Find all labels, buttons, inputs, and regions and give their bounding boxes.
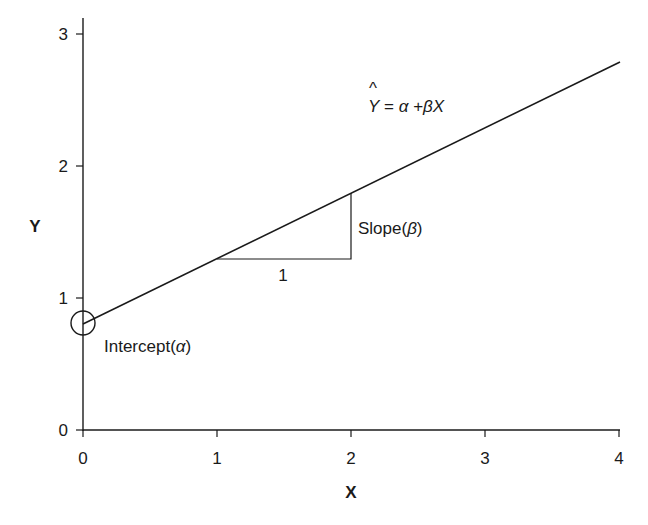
regression-chart: 3 2 1 0 0 1 2 3 4 X Y 1 Slope(β) Interce…	[0, 0, 648, 525]
y-ticks: 3 2 1 0	[59, 25, 83, 440]
x-axis-label: X	[345, 483, 357, 502]
x-tick-label: 1	[212, 449, 221, 468]
y-tick-label: 1	[59, 289, 68, 308]
y-tick-label: 2	[59, 157, 68, 176]
y-tick-label: 0	[59, 421, 68, 440]
x-tick-label: 4	[614, 449, 623, 468]
y-axis-label: Y	[29, 217, 41, 236]
x-tick-label: 0	[78, 449, 87, 468]
hat-symbol: ^	[369, 79, 377, 98]
run-label: 1	[278, 266, 287, 285]
x-tick-label: 2	[346, 449, 355, 468]
intercept-label: Intercept(α)	[104, 337, 191, 356]
svg-text:Y = α +βX: Y = α +βX	[368, 97, 445, 116]
y-tick-label: 3	[59, 25, 68, 44]
x-ticks: 0 1 2 3 4	[78, 430, 623, 468]
equation-label: ^ Y = α +βX	[368, 79, 445, 116]
slope-label: Slope(β)	[358, 219, 423, 238]
x-tick-label: 3	[480, 449, 489, 468]
